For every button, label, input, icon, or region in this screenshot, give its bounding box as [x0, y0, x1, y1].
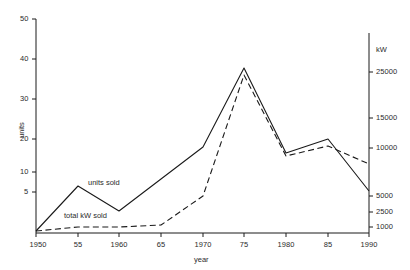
y2-tick-label-25000: 25000	[376, 68, 397, 76]
y-tick-label-10: 10	[20, 168, 29, 176]
y-axis-left-title: units	[17, 122, 26, 138]
x-tick-label-1960: 1960	[110, 241, 127, 249]
y-tick-label-50: 50	[20, 15, 29, 23]
x-tick-label-1980: 1980	[277, 241, 294, 249]
x-tick-label-75: 75	[240, 241, 249, 249]
y2-tick-label-2500: 2500	[376, 208, 393, 216]
y2-tick-label-1000: 1000	[376, 223, 393, 231]
x-axis-title: year	[194, 255, 209, 264]
chart-plot-area	[0, 0, 410, 270]
y-tick-label-40: 40	[20, 55, 29, 63]
series-annotation-total-kw-sold: total kW sold	[64, 211, 107, 220]
series-line-total-kw-sold	[36, 75, 369, 231]
x-tick-label-1990: 1990	[360, 241, 377, 249]
series-annotation-units-sold: units sold	[88, 178, 120, 187]
series-line-units-sold	[36, 68, 369, 231]
x-axis-ticks	[36, 233, 369, 237]
y-axis-right-title: kW	[376, 45, 387, 54]
y2-tick-label-10000: 10000	[376, 144, 397, 152]
y-axis-left-ticks	[32, 19, 36, 192]
y-tick-label-30: 30	[20, 95, 29, 103]
x-tick-label-1970: 1970	[194, 241, 211, 249]
y-axis-right-ticks	[369, 72, 373, 227]
y2-tick-label-5000: 5000	[376, 192, 393, 200]
y2-tick-label-15000: 15000	[376, 114, 397, 122]
y-tick-label-5: 5	[24, 188, 28, 196]
x-tick-label-85: 85	[324, 241, 333, 249]
x-tick-label-55: 55	[74, 241, 83, 249]
chart-container: 50 40 30 20 10 5 25000 15000 10000 5000 …	[0, 0, 410, 270]
x-tick-label-65: 65	[157, 241, 166, 249]
x-tick-label-1950: 1950	[29, 241, 46, 249]
